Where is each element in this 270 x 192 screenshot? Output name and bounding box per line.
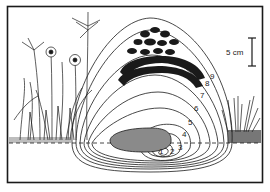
vegetation-left [14, 12, 100, 140]
contour-label-6: 6 [194, 104, 199, 113]
scale-bar: 5 cm [226, 38, 256, 66]
contour-label-2: 2 [170, 147, 175, 156]
contour-label-4: 4 [182, 130, 187, 139]
frame-border [8, 7, 263, 183]
contour-label-9: 9 [210, 72, 215, 81]
scale-bar-label: 5 cm [226, 48, 244, 57]
contour-label-1: 1 [159, 147, 164, 156]
diagram-canvas: 1 2 3 4 5 6 7 8 9 5 cm [0, 0, 270, 192]
contour-label-5: 5 [188, 118, 193, 127]
contour-label-7: 7 [200, 91, 205, 100]
contour-label-3: 3 [178, 143, 183, 152]
